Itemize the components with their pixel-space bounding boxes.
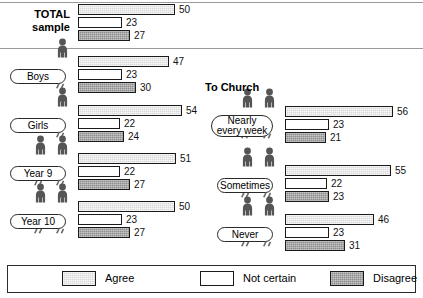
bar-year-9-disagree bbox=[78, 179, 130, 190]
bar-total-sample-notcertain bbox=[78, 17, 122, 28]
bar-value-boys-disagree: 30 bbox=[140, 82, 151, 93]
bar-value-year-9-agree: 51 bbox=[180, 153, 191, 164]
bar-nearly-every-week-notcertain bbox=[285, 119, 329, 130]
person-icon bbox=[34, 183, 47, 209]
bar-value-sometimes-notcertain: 22 bbox=[331, 178, 342, 189]
bar-sometimes-notcertain bbox=[285, 178, 327, 189]
group-label-total-sample: TOTAL sample bbox=[8, 8, 70, 34]
bar-value-nearly-every-week-notcertain: 23 bbox=[333, 119, 344, 130]
bar-girls-agree bbox=[78, 105, 182, 116]
bar-girls-disagree bbox=[78, 131, 124, 142]
bar-year-10-agree bbox=[78, 201, 175, 212]
swatch-disagree bbox=[330, 271, 364, 286]
bar-value-boys-agree: 47 bbox=[173, 56, 184, 67]
legend-label-notcertain: Not certain bbox=[243, 272, 296, 285]
bar-nearly-every-week-disagree bbox=[285, 132, 326, 143]
divider-rule-1 bbox=[0, 2, 423, 3]
group-label-never[interactable]: Never bbox=[217, 227, 273, 242]
person-icon bbox=[263, 88, 276, 114]
bar-value-never-disagree: 31 bbox=[349, 240, 360, 251]
bar-total-sample-disagree bbox=[78, 30, 130, 41]
bar-total-sample-agree bbox=[78, 4, 175, 15]
section-title-to-church: To Church bbox=[205, 81, 259, 94]
group-label-nearly-every-week[interactable]: Nearly every week bbox=[211, 115, 273, 137]
feet-icon bbox=[262, 241, 274, 248]
bar-year-9-agree bbox=[78, 153, 176, 164]
group-label-year-10[interactable]: Year 10 bbox=[10, 214, 66, 229]
bar-never-disagree bbox=[285, 240, 345, 251]
bar-value-year-10-disagree: 27 bbox=[134, 227, 145, 238]
bar-never-agree bbox=[285, 214, 374, 225]
bar-boys-agree bbox=[78, 56, 169, 67]
person-icon bbox=[241, 196, 254, 222]
legend-label-agree: Agree bbox=[105, 272, 134, 285]
group-label-sometimes[interactable]: Sometimes bbox=[217, 178, 273, 193]
bar-year-9-notcertain bbox=[78, 166, 120, 177]
bar-sometimes-disagree bbox=[285, 191, 329, 202]
bar-nearly-every-week-agree bbox=[285, 106, 393, 117]
bar-value-year-9-notcertain: 22 bbox=[124, 166, 135, 177]
bar-value-never-agree: 46 bbox=[378, 214, 389, 225]
person-icon bbox=[56, 38, 69, 64]
legend-item-agree[interactable]: Agree bbox=[62, 271, 134, 286]
person-icon bbox=[263, 147, 276, 173]
chart-root: 502327TOTAL sample472330Boys542224Girls5… bbox=[0, 0, 423, 298]
bar-value-year-10-notcertain: 23 bbox=[126, 214, 137, 225]
bar-value-girls-agree: 54 bbox=[186, 105, 197, 116]
bar-value-nearly-every-week-disagree: 21 bbox=[330, 132, 341, 143]
legend-item-disagree[interactable]: Disagree bbox=[330, 271, 417, 286]
bar-value-total-sample-agree: 50 bbox=[179, 4, 190, 15]
bar-value-total-sample-disagree: 27 bbox=[134, 30, 145, 41]
person-icon bbox=[263, 196, 276, 222]
group-label-girls[interactable]: Girls bbox=[10, 118, 66, 133]
bar-year-10-disagree bbox=[78, 227, 130, 238]
bar-boys-notcertain bbox=[78, 69, 122, 80]
legend-item-notcertain[interactable]: Not certain bbox=[200, 271, 296, 286]
group-label-boys[interactable]: Boys bbox=[10, 69, 66, 84]
feet-icon bbox=[55, 228, 67, 235]
bar-value-year-10-agree: 50 bbox=[179, 201, 190, 212]
bar-value-girls-disagree: 24 bbox=[128, 131, 139, 142]
bar-value-sometimes-agree: 55 bbox=[395, 165, 406, 176]
bar-sometimes-agree bbox=[285, 165, 391, 176]
bar-girls-notcertain bbox=[78, 118, 120, 129]
bar-boys-disagree bbox=[78, 82, 136, 93]
bar-value-sometimes-disagree: 23 bbox=[333, 191, 344, 202]
group-label-year-9[interactable]: Year 9 bbox=[10, 166, 66, 181]
feet-icon bbox=[240, 241, 252, 248]
person-icon bbox=[56, 135, 69, 161]
legend-label-disagree: Disagree bbox=[373, 272, 417, 285]
bar-value-year-9-disagree: 27 bbox=[134, 179, 145, 190]
person-icon bbox=[241, 147, 254, 173]
feet-icon bbox=[33, 228, 45, 235]
bar-value-total-sample-notcertain: 23 bbox=[126, 17, 137, 28]
bar-value-never-notcertain: 23 bbox=[333, 227, 344, 238]
swatch-agree bbox=[62, 271, 96, 286]
bar-value-nearly-every-week-agree: 56 bbox=[397, 106, 408, 117]
bar-value-boys-notcertain: 23 bbox=[126, 69, 137, 80]
person-icon bbox=[56, 183, 69, 209]
person-icon bbox=[56, 87, 69, 113]
person-icon bbox=[34, 135, 47, 161]
bar-year-10-notcertain bbox=[78, 214, 122, 225]
bar-never-notcertain bbox=[285, 227, 329, 238]
bar-value-girls-notcertain: 22 bbox=[124, 118, 135, 129]
swatch-not-certain bbox=[200, 271, 234, 286]
